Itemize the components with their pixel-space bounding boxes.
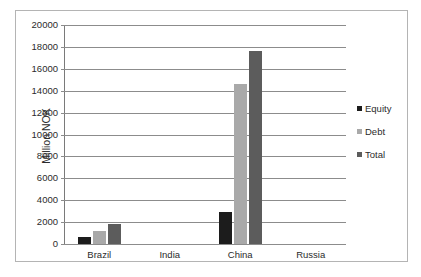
bar-group-bars	[64, 25, 135, 244]
y-tick-label: 10000	[32, 130, 58, 140]
bar-group: India	[135, 25, 206, 244]
legend-label: Equity	[365, 103, 391, 114]
bar-group: China	[205, 25, 276, 244]
legend-swatch-icon	[357, 152, 362, 157]
y-tick-label: 14000	[32, 86, 58, 96]
legend-label: Total	[365, 149, 385, 160]
x-tick-label-india: India	[135, 249, 206, 260]
bar-group-bars	[205, 25, 276, 244]
y-tick-label: 4000	[37, 195, 58, 205]
x-tick-label-russia: Russia	[276, 249, 347, 260]
y-tick-label: 0	[53, 239, 58, 249]
chart-figure: Million NOK 2000018000160001400012000100…	[15, 10, 408, 262]
legend-item-equity[interactable]: Equity	[357, 103, 409, 114]
legend-item-total[interactable]: Total	[357, 149, 409, 160]
bar-total-china[interactable]	[249, 51, 262, 244]
bar-group: Brazil	[64, 25, 135, 244]
bar-total-brazil[interactable]	[108, 224, 121, 244]
legend-item-debt[interactable]: Debt	[357, 126, 409, 137]
y-tick-mark	[61, 244, 64, 245]
y-tick-label: 6000	[37, 174, 58, 184]
bar-group: Russia	[276, 25, 347, 244]
y-tick-label: 18000	[32, 42, 58, 52]
x-tick-label-china: China	[205, 249, 276, 260]
bar-equity-brazil[interactable]	[78, 237, 91, 244]
x-tick-label-brazil: Brazil	[64, 249, 135, 260]
legend-swatch-icon	[357, 129, 362, 134]
y-tick-label: 16000	[32, 64, 58, 74]
bar-debt-china[interactable]	[234, 84, 247, 244]
y-tick-label: 20000	[32, 20, 58, 30]
chart-legend: EquityDebtTotal	[357, 103, 409, 172]
y-tick-label: 8000	[37, 152, 58, 162]
legend-label: Debt	[365, 126, 385, 137]
bar-debt-brazil[interactable]	[93, 231, 106, 244]
y-tick-label: 12000	[32, 108, 58, 118]
legend-swatch-icon	[357, 106, 362, 111]
bar-equity-china[interactable]	[219, 212, 232, 244]
plot-area: 2000018000160001400012000100008000600040…	[64, 25, 346, 244]
bar-group-bars	[276, 25, 347, 244]
y-tick-label: 2000	[37, 217, 58, 227]
gridline	[64, 244, 346, 245]
bar-group-bars	[135, 25, 206, 244]
